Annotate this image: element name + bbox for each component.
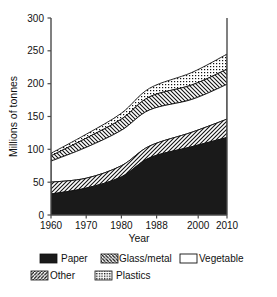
legend-swatch-other xyxy=(31,271,48,280)
y-tick-label-0: 0 xyxy=(38,210,44,221)
y-tick-label-200: 200 xyxy=(27,78,44,89)
x-tick-label-2010: 2010 xyxy=(216,220,239,231)
legend-swatch-vegetable xyxy=(180,254,197,263)
x-tick-label-1980: 1980 xyxy=(110,220,133,231)
legend-label-vegetable: Vegetable xyxy=(199,253,244,264)
legend-item-paper[interactable]: Paper xyxy=(40,253,88,264)
y-tick-label-150: 150 xyxy=(27,111,44,122)
y-tick-label-250: 250 xyxy=(27,45,44,56)
x-tick-label-1960: 1960 xyxy=(40,220,63,231)
legend-item-glass-metal[interactable]: Glass/metal xyxy=(101,253,172,264)
chart-legend: Paper Glass/metal Vegetable Other Plasti… xyxy=(31,253,244,281)
y-axis-title: Millions of tonnes xyxy=(7,76,19,157)
x-tick-label-1970: 1970 xyxy=(75,220,98,231)
y-tick-label-50: 50 xyxy=(33,177,45,188)
legend-label-glass-metal: Glass/metal xyxy=(119,253,172,264)
x-tick-label-2000: 2000 xyxy=(187,220,210,231)
x-axis-title: Year xyxy=(128,232,150,244)
legend-label-other: Other xyxy=(50,270,76,281)
legend-item-plastics[interactable]: Plastics xyxy=(95,270,150,281)
legend-swatch-paper xyxy=(40,254,57,263)
legend-item-other[interactable]: Other xyxy=(31,270,76,281)
y-tick-label-300: 300 xyxy=(27,13,44,24)
chart-canvas: 300 250 200 150 100 50 0 1960 1970 1980 … xyxy=(0,0,277,297)
legend-label-paper: Paper xyxy=(61,253,88,264)
legend-swatch-glass-metal xyxy=(101,254,118,263)
legend-swatch-plastics xyxy=(95,271,112,280)
y-tick-label-100: 100 xyxy=(27,144,44,155)
stacked-area-chart: 300 250 200 150 100 50 0 1960 1970 1980 … xyxy=(0,0,277,297)
legend-item-vegetable[interactable]: Vegetable xyxy=(180,253,244,264)
legend-label-plastics: Plastics xyxy=(116,270,150,281)
x-tick-label-1988: 1988 xyxy=(145,220,168,231)
